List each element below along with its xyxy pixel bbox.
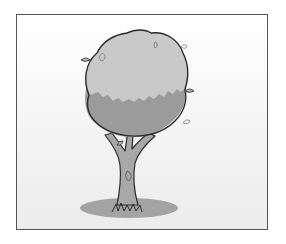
leaf-icon bbox=[81, 58, 90, 62]
tree-illustration bbox=[17, 15, 268, 230]
tree-trunk bbox=[105, 133, 155, 205]
tree-crown-light bbox=[86, 30, 188, 102]
illustration-frame bbox=[16, 14, 268, 230]
leaf-icon bbox=[185, 89, 194, 93]
leaf-mark bbox=[183, 120, 190, 124]
leaf-mark bbox=[181, 45, 187, 49]
